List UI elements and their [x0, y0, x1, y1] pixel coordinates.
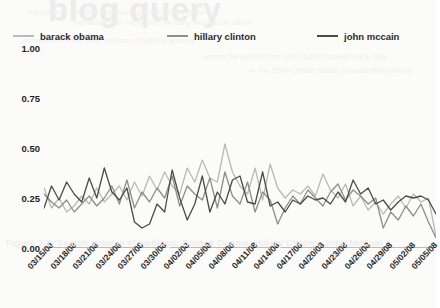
legend-label-hillary-clinton: hillary clinton [194, 31, 256, 42]
legend-swatch-john-mccain [317, 35, 338, 37]
y-axis-tick-labels: 0.000.250.500.751.00 [0, 48, 44, 248]
figure-caption-watermark: Figure 3.2: Search volume of weblogs: Ba… [6, 237, 383, 248]
chart-canvas [44, 48, 436, 248]
ghost-text-line: the relative interest over time for each… [28, 8, 205, 17]
x-axis-tick-labels: 03/15/0803/18/0803/21/0803/24/0803/27/08… [44, 240, 436, 308]
y-axis-tick-label: 0.25 [22, 193, 41, 204]
y-axis-tick-label: 1.00 [22, 43, 41, 54]
legend-item-hillary-clinton: hillary clinton [167, 28, 256, 44]
legend-label-john-mccain: john mccain [344, 31, 399, 42]
ghost-text-line: candidates as measured by daily blog que… [74, 18, 252, 27]
legend-label-barack-obama: barack obama [40, 31, 104, 42]
legend-swatch-hillary-clinton [167, 35, 188, 37]
series-line-barack-obama [44, 144, 436, 236]
chart-legend: barack obama hillary clinton john mccain [0, 28, 436, 44]
legend-swatch-barack-obama [13, 35, 34, 37]
plot-area: 0.000.250.500.751.00 03/15/0803/18/0803/… [0, 48, 436, 308]
series-line-hillary-clinton [44, 172, 436, 238]
y-axis-tick-label: 0.50 [22, 143, 41, 154]
y-axis-tick-label: 0.75 [22, 93, 41, 104]
legend-item-john-mccain: john mccain [317, 28, 399, 44]
